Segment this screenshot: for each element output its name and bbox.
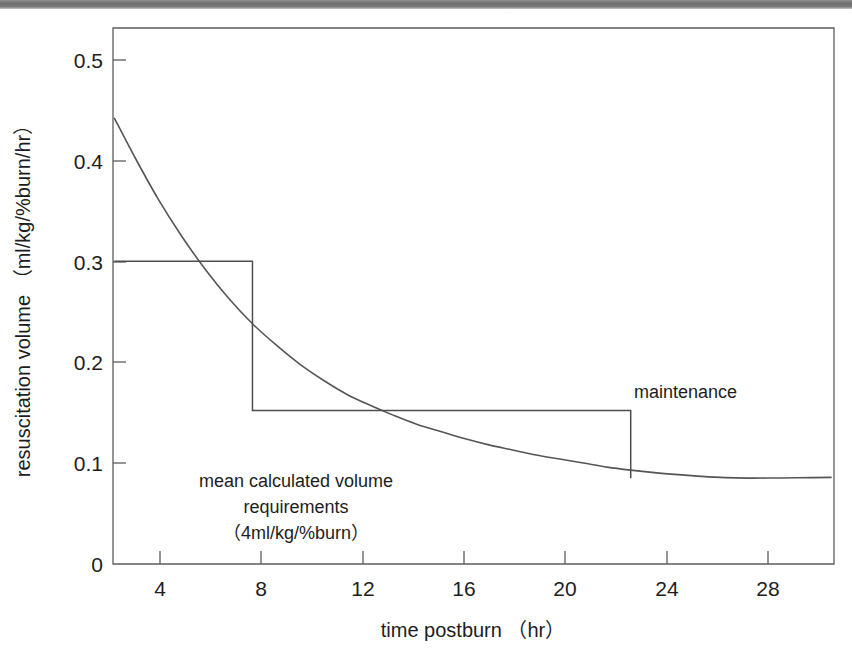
- x-tick-label-24: 24: [655, 577, 679, 600]
- y-axis-title: resuscitation volume （ml/kg/%burn/hr）: [12, 115, 34, 477]
- x-axis-title: time postburn （hr）: [381, 619, 566, 641]
- series-mean-calculated-volume: [114, 118, 831, 478]
- y-tick-label-0.3: 0.3: [74, 251, 103, 274]
- y-tick-label-0.1: 0.1: [74, 452, 103, 475]
- x-tick-label-16: 16: [452, 577, 475, 600]
- chart-figure: 0.5 0.4 0.3 0.2 0.1 0 4 8 12: [0, 0, 852, 659]
- series-maintenance: [114, 261, 631, 478]
- x-tick-label-20: 20: [553, 577, 576, 600]
- x-tick-label-28: 28: [756, 577, 779, 600]
- x-axis-ticks: [160, 551, 768, 564]
- y-tick-label-0: 0: [91, 553, 103, 576]
- x-tick-label-4: 4: [154, 577, 166, 600]
- chart-svg: 0.5 0.4 0.3 0.2 0.1 0 4 8 12: [0, 0, 852, 659]
- y-tick-label-0.4: 0.4: [74, 150, 104, 173]
- maintenance-label: maintenance: [634, 382, 737, 402]
- x-axis-tick-labels: 4 8 12 16 20 24 28: [154, 577, 780, 600]
- x-tick-label-12: 12: [351, 577, 374, 600]
- requirements-label-line-1: mean calculated volume: [199, 471, 393, 491]
- y-tick-label-0.5: 0.5: [74, 49, 103, 72]
- figure-page: 0.5 0.4 0.3 0.2 0.1 0 4 8 12: [0, 0, 852, 659]
- x-tick-label-8: 8: [255, 577, 267, 600]
- y-tick-label-0.2: 0.2: [74, 351, 103, 374]
- requirements-label-line-3: （4ml/kg/%burn）: [223, 523, 369, 543]
- requirements-label-line-2: requirements: [243, 497, 348, 517]
- y-axis-tick-labels: 0.5 0.4 0.3 0.2 0.1 0: [74, 49, 104, 576]
